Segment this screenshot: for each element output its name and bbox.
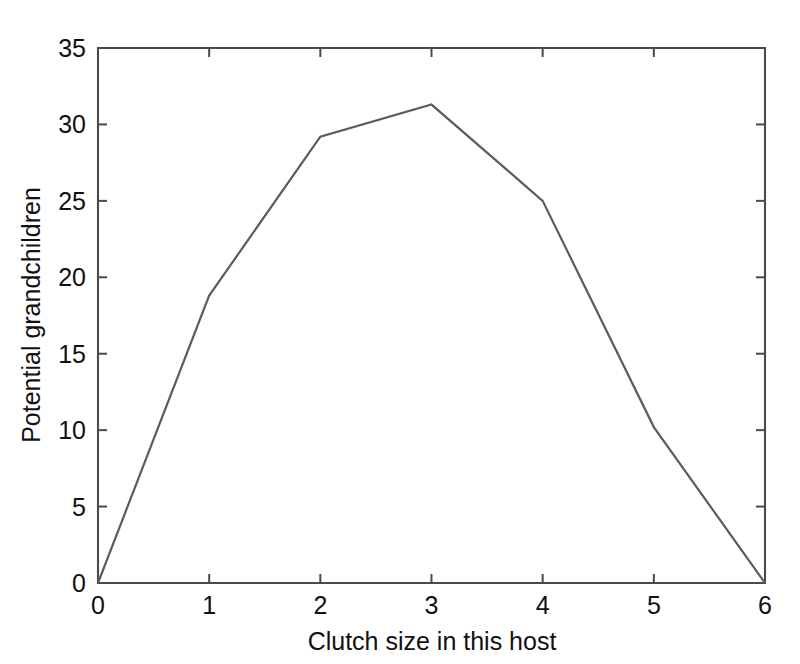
line-chart: 0123456 05101520253035 Clutch size in th… — [0, 0, 800, 664]
x-axis-title: Clutch size in this host — [308, 627, 557, 655]
y-tick-label-0: 0 — [72, 569, 86, 597]
y-tick-label-3: 15 — [58, 340, 86, 368]
figure-background — [0, 0, 800, 664]
y-tick-label-5: 25 — [58, 187, 86, 215]
y-tick-label-6: 30 — [58, 110, 86, 138]
x-tick-label-6: 6 — [758, 591, 772, 619]
y-tick-label-1: 5 — [72, 493, 86, 521]
y-axis-title: Potential grandchildren — [17, 187, 45, 443]
x-tick-label-4: 4 — [536, 591, 550, 619]
y-tick-label-2: 10 — [58, 416, 86, 444]
x-tick-label-2: 2 — [313, 591, 327, 619]
x-tick-label-1: 1 — [202, 591, 216, 619]
y-tick-label-4: 20 — [58, 263, 86, 291]
x-tick-label-3: 3 — [425, 591, 439, 619]
x-tick-label-0: 0 — [91, 591, 105, 619]
chart-figure: 0123456 05101520253035 Clutch size in th… — [0, 0, 800, 664]
x-tick-label-5: 5 — [647, 591, 661, 619]
y-tick-label-7: 35 — [58, 34, 86, 62]
